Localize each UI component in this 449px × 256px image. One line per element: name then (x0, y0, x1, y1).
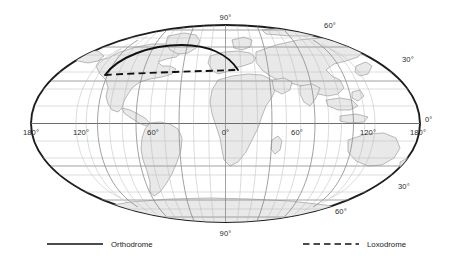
label-lon-eq-0: 0° (222, 128, 229, 137)
label-lat-right-30n: 30° (402, 55, 414, 64)
legend: Orthodrome Loxodrome (47, 240, 406, 249)
legend-label-loxodrome: Loxodrome (367, 240, 406, 249)
map-figure: 90° 60° 30° 0° 30° 60° 180° 120° 60° 0° … (0, 0, 449, 256)
label-lon-top-90: 90° (220, 13, 232, 22)
label-lat-right-30s: 30° (398, 182, 410, 191)
world-map-svg: 90° 60° 30° 0° 30° 60° 180° 120° 60° 0° … (0, 0, 449, 256)
label-lat-right-0: 0° (425, 115, 432, 124)
label-lon-eq-180w: 180° (23, 128, 39, 137)
label-lon-eq-120e: 120° (360, 128, 376, 137)
label-lon-eq-180e: 180° (410, 128, 426, 137)
label-lon-eq-60e: 60° (291, 128, 303, 137)
label-lon-bottom-90: 90° (220, 229, 232, 238)
label-lon-top-60: 60° (324, 21, 336, 30)
label-lon-eq-120w: 120° (73, 128, 89, 137)
label-lon-eq-60w: 60° (147, 128, 159, 137)
label-lat-right-60s: 60° (335, 207, 347, 216)
legend-label-orthodrome: Orthodrome (111, 240, 153, 249)
